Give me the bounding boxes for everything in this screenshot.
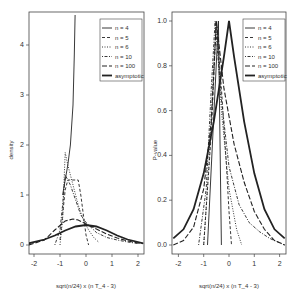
- chart-figure: -2-101201234 sqrt(n/24) x (n T_4 - 3) de…: [0, 0, 298, 301]
- x-tick-label: -2: [31, 260, 37, 267]
- x-tick-label: -2: [175, 260, 181, 267]
- x-tick-label: -1: [57, 260, 63, 267]
- legend-entry: n = 6: [115, 44, 129, 50]
- legend-entry: n = 100: [115, 63, 136, 69]
- left-legend: n = 4n = 5n = 6n = 10n = 100asymptotic: [100, 19, 144, 81]
- curve-n10: [55, 175, 138, 245]
- legend-entry: n = 4: [258, 25, 272, 31]
- left-panel: -2-101201234 sqrt(n/24) x (n T_4 - 3) de…: [8, 12, 144, 289]
- left-x-axis-label: sqrt(n/24) x (n T_4 - 3): [56, 283, 116, 289]
- x-tick-label: 1: [252, 260, 256, 267]
- legend-entry: n = 100: [258, 63, 279, 69]
- legend-entry: asymptotic: [115, 73, 144, 79]
- y-tick-label: 0.2: [157, 196, 167, 203]
- x-tick-label: 0: [227, 260, 231, 267]
- y-tick-label: 0.6: [157, 107, 167, 114]
- legend-entry: asymptotic: [258, 73, 287, 79]
- legend-entry: n = 5: [258, 35, 272, 41]
- y-tick-label: 4: [20, 41, 24, 48]
- legend-entry: n = 5: [115, 35, 129, 41]
- x-tick-label: 2: [136, 260, 140, 267]
- y-tick-label: 0: [20, 241, 24, 248]
- y-tick-label: 0.8: [157, 62, 167, 69]
- legend-entry: n = 6: [258, 44, 272, 50]
- x-tick-label: 0: [84, 260, 88, 267]
- curve-n5: [204, 21, 232, 245]
- y-tick-label: 1.0: [157, 17, 167, 24]
- x-tick-label: 1: [110, 260, 114, 267]
- right-y-axis-label: P-value: [152, 139, 158, 160]
- y-tick-label: 3: [20, 91, 24, 98]
- right-panel: -2-10120.00.20.40.60.81.0 sqrt(n/24) x (…: [152, 12, 287, 289]
- y-tick-label: 0.0: [157, 241, 167, 248]
- y-tick-label: 1: [20, 191, 24, 198]
- x-tick-label: 2: [278, 260, 282, 267]
- left-y-axis-label: density: [8, 140, 14, 159]
- right-legend: n = 4n = 5n = 6n = 10n = 100asymptotic: [243, 19, 287, 81]
- y-tick-label: 0.4: [157, 151, 167, 158]
- right-x-axis-label: sqrt(n/24) x (n T_4 - 3): [199, 283, 259, 289]
- x-tick-label: -1: [201, 260, 207, 267]
- legend-entry: n = 4: [115, 25, 129, 31]
- legend-entry: n = 10: [115, 54, 133, 60]
- y-tick-label: 2: [20, 141, 24, 148]
- curve-n4: [63, 15, 76, 195]
- legend-entry: n = 10: [258, 54, 276, 60]
